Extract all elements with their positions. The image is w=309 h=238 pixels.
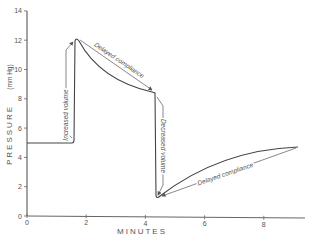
y-tick-label: 14 [14, 7, 22, 14]
y-tick-label: 2 [18, 183, 22, 190]
y-tick-label: 12 [14, 37, 22, 44]
annotation-delayed-compliance-1: Delayed compliance Delayed compliance [80, 40, 152, 90]
x-tick-label: 6 [203, 220, 207, 227]
y-axis-unit: (mm Hg) [6, 64, 14, 89]
x-axis-label: MINUTES [117, 227, 167, 236]
svg-text:Delayed compliance: Delayed compliance [93, 41, 146, 81]
x-axis: 02468 [25, 214, 305, 228]
y-tick-label: 0 [18, 213, 22, 220]
svg-text:Decreased volume: Decreased volume [160, 119, 167, 174]
y-tick-label: 8 [18, 95, 22, 102]
y-tick-label: 4 [18, 154, 22, 161]
annotation-decreased-volume: Decreased volume Decreased volume [157, 97, 167, 195]
annotation-delayed-compliance-2: Delayed compliance Delayed compliance [162, 148, 296, 196]
svg-text:Delayed compliance: Delayed compliance [196, 161, 254, 188]
x-tick-label: 2 [84, 219, 88, 226]
y-axis: 02468101214 [14, 7, 27, 219]
x-tick-label: 0 [25, 219, 29, 226]
annotation-increased-volume: Increased volume Increased volume [62, 42, 73, 141]
y-axis-label: PRESSURE [5, 105, 14, 165]
pressure-chart: 02468101214 02468 MINUTES PRESSURE (mm H… [0, 0, 309, 238]
x-tick-label: 4 [143, 220, 147, 227]
y-tick-label: 10 [14, 66, 22, 73]
x-tick-label: 8 [262, 221, 266, 228]
svg-text:Increased volume: Increased volume [62, 89, 69, 141]
y-tick-label: 6 [18, 125, 22, 132]
